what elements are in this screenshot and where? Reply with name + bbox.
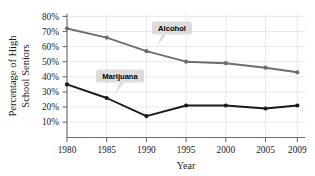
marijuana-point-2009 [295,103,299,107]
y-axis-tick-labels: 80% 70% 60% 50% 40% 30% 20% 10% [42,12,59,128]
y-tick-label-50: 50% [42,57,59,67]
chart-figure: 80% 70% 60% 50% 40% 30% 20% 10% 1980 198… [0,0,315,176]
y-tick-label-70: 70% [42,27,59,37]
x-axis [67,138,306,143]
x-axis-title: Year [177,160,196,171]
alcohol-line [67,29,297,73]
marijuana-point-1980 [65,82,69,86]
y-tick-label-30: 30% [42,87,59,97]
x-tick-label-2005: 2005 [256,145,275,155]
alcohol-point-1980 [65,26,69,30]
marijuana-point-2005 [263,106,267,110]
x-tick-label-1995: 1995 [177,145,196,155]
alcohol-point-2000 [224,61,228,65]
x-tick-label-1990: 1990 [137,145,156,155]
marijuana-point-2000 [224,103,228,107]
y-tick-label-20: 20% [42,102,59,112]
marijuana-point-1985 [105,96,109,100]
marijuana-line [67,84,297,116]
y-tick-label-10: 10% [42,117,59,127]
alcohol-point-1990 [144,49,148,53]
marijuana-callout-label: Marijuana [102,72,138,81]
y-axis-title: Percentage of High School Seniors [7,35,31,117]
alcohol-callout-label: Alcohol [158,24,186,33]
x-tick-label-1985: 1985 [97,145,116,155]
series-marijuana [65,82,300,118]
line-chart-svg: 80% 70% 60% 50% 40% 30% 20% 10% 1980 198… [0,0,315,176]
y-tick-label-40: 40% [42,72,59,82]
x-tick-label-1980: 1980 [58,145,77,155]
x-tick-label-2009: 2009 [288,145,307,155]
alcohol-callout-tail [157,34,166,46]
alcohol-point-1995 [184,60,188,64]
marijuana-point-1990 [144,114,148,118]
y-axis-title-line2: School Seniors [20,44,31,107]
alcohol-point-2005 [263,66,267,70]
y-tick-label-60: 60% [42,42,59,52]
x-axis-tick-labels: 1980 1985 1990 1995 2000 2005 2009 [58,145,307,155]
x-tick-label-2000: 2000 [217,145,236,155]
alcohol-point-1985 [105,36,109,40]
y-axis [63,14,68,138]
y-tick-label-80: 80% [42,12,59,22]
callout-marijuana: Marijuana [96,70,144,96]
marijuana-callout-tail [114,82,124,95]
alcohol-point-2009 [295,70,299,74]
marijuana-point-1995 [184,103,188,107]
y-axis-title-line1: Percentage of High [7,35,18,117]
